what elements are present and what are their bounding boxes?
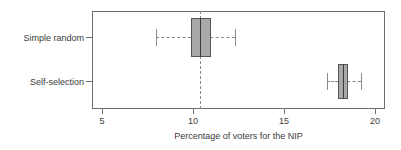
x-tick-mark-10 [193,109,194,114]
y-tick-label-text: Self-selection [30,77,84,87]
box-simple-random [191,18,211,57]
x-tick-label-15: 15 [269,116,299,126]
whisker-low-simple-random [156,37,191,38]
whisker-cap-high-simple-random [235,29,236,46]
y-axis-label-self-selection: Self-selection [0,77,84,87]
y-axis-label-simple-random: Simple random [0,33,84,43]
whisker-cap-high-self-selection [361,73,362,90]
y-tick-mark-self-selection [86,81,92,82]
x-tick-label-5: 5 [87,116,117,126]
y-tick-mark-simple-random [86,37,92,38]
whisker-cap-low-self-selection [327,73,328,90]
x-tick-label-20: 20 [360,116,390,126]
whisker-high-simple-random [210,37,235,38]
whisker-cap-low-simple-random [156,29,157,46]
x-tick-mark-20 [375,109,376,114]
x-tick-label-10: 10 [178,116,208,126]
x-tick-mark-5 [102,109,103,114]
x-axis-title: Percentage of voters for the NIP [92,131,385,141]
x-tick-mark-15 [284,109,285,114]
boxplot-figure: Simple random Self-selection 5 10 15 20 … [0,0,401,150]
median-simple-random [200,18,201,57]
y-tick-label-text: Simple random [23,33,84,43]
median-self-selection [343,64,344,99]
whisker-high-self-selection [347,81,361,82]
whisker-low-self-selection [327,81,338,82]
